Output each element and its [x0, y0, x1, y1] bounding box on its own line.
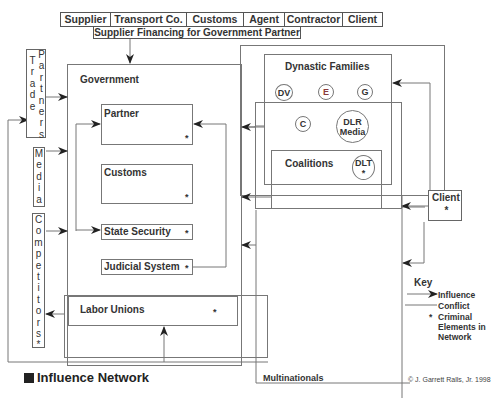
- family-dv-node: DV: [275, 84, 293, 101]
- dynastic-families-title: Dynastic Families: [285, 61, 369, 72]
- partner-criminal-marker: *: [185, 133, 189, 143]
- multinationals-label: Multinationals: [263, 373, 324, 383]
- family-e-node: E: [318, 84, 334, 100]
- family-dlr-media-node: DLR Media: [336, 110, 369, 143]
- key-criminal-line3: Network: [438, 332, 486, 342]
- partner-label: Partner: [104, 108, 139, 119]
- customs-criminal-marker: *: [185, 192, 189, 202]
- top-item-customs: Customs: [186, 12, 244, 27]
- family-c-node: C: [295, 116, 311, 132]
- client-label: Client: [432, 192, 461, 203]
- state-security-label: State Security: [104, 226, 171, 237]
- coalitions-label: Coalitions: [285, 158, 333, 169]
- trade-partners-box: Trade Partners: [26, 49, 46, 138]
- connector-lines: [0, 0, 499, 398]
- top-item-agent: Agent: [243, 12, 285, 27]
- copyright-text: © J. Garrett Ralls, Jr. 1998: [408, 376, 491, 383]
- media-box: Media: [33, 147, 45, 207]
- key-influence: Influence: [438, 290, 475, 300]
- state-security-criminal-marker: *: [185, 228, 189, 238]
- top-item-contractor: Contractor: [284, 12, 343, 27]
- judicial-criminal-marker: *: [185, 263, 189, 273]
- financing-label: Supplier Financing for Government Partne…: [93, 26, 301, 39]
- key-title: Key: [414, 278, 432, 288]
- family-dlt-node: DLT *: [352, 155, 375, 180]
- customs-label: Customs: [104, 167, 147, 178]
- dlt-label: DLT: [355, 158, 372, 168]
- labor-unions-label: Labor Unions: [80, 304, 144, 315]
- dlr-label: DLR: [343, 117, 362, 127]
- caption-square-icon: [24, 373, 34, 383]
- client-box: Client *: [428, 190, 462, 221]
- labor-unions-criminal-marker: *: [213, 307, 217, 317]
- partners-label: Partners: [37, 49, 46, 140]
- family-g-node: G: [357, 84, 373, 100]
- top-item-transport-co: Transport Co.: [110, 12, 187, 27]
- key-criminal-line1: Criminal: [438, 312, 486, 322]
- diagram-caption: Influence Network: [37, 370, 149, 385]
- competitors-box: Competitors*: [32, 213, 45, 348]
- client-criminal-marker: *: [432, 205, 461, 216]
- key-criminal-line2: Elements in: [438, 322, 486, 332]
- government-title: Government: [80, 74, 139, 85]
- top-item-client: Client: [342, 12, 383, 27]
- top-item-supplier: Supplier: [60, 12, 111, 27]
- key-criminal-elements: Criminal Elements in Network: [438, 312, 486, 342]
- judicial-system-label: Judicial System: [104, 261, 180, 272]
- key-criminal-marker: *: [429, 312, 432, 322]
- media-label: Media: [340, 127, 366, 137]
- dlt-criminal-marker: *: [362, 168, 366, 178]
- trade-label: Trade: [28, 55, 37, 112]
- key-conflict: Conflict: [438, 301, 470, 311]
